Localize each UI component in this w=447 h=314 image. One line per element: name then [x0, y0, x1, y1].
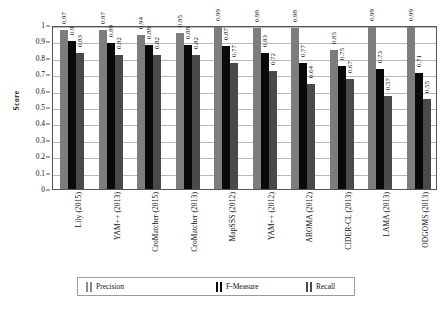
- y-axis-tick-label: 0.4: [36, 121, 45, 129]
- bar-f-measure: 0.88: [184, 27, 192, 189]
- bar-group: 0.850.750.67: [323, 27, 362, 189]
- y-axis-tick-mark: [46, 42, 50, 43]
- bar-precision: 0.97: [60, 27, 68, 189]
- bar-f-measure: 0.83: [261, 27, 269, 189]
- precision-swatch-icon: [86, 282, 93, 292]
- y-axis-tick-label: 0.2: [36, 153, 45, 161]
- bar-precision: 0.97: [99, 27, 107, 189]
- bar-recall: 0.64: [307, 27, 315, 189]
- y-axis-tick-label: 0.8: [36, 55, 45, 63]
- bar-value-label: 0.77: [231, 45, 238, 57]
- legend-label: Precision: [96, 282, 124, 291]
- x-axis-tick-labels: Lily (2015)YAM++ (2013)CroMatcher (2015)…: [52, 192, 437, 264]
- bar: [99, 30, 107, 189]
- y-axis-tick-mark: [46, 157, 50, 158]
- bar-value-label: 0.64: [308, 66, 315, 78]
- bar-value-label: 0.75: [338, 48, 345, 60]
- bar-value-label: 0.85: [330, 32, 337, 44]
- bar: [68, 41, 76, 189]
- plot-area: 0.970.90.830.970.890.820.940.880.820.950…: [52, 26, 437, 190]
- bar: [184, 45, 192, 189]
- x-axis-tick-label: CIDER-CL (2013): [345, 192, 353, 250]
- bar-precision: 0.94: [137, 27, 145, 189]
- bar-value-label: 0.99: [215, 9, 222, 21]
- bar: [222, 46, 230, 189]
- bar-value-label: 0.98: [253, 10, 260, 22]
- bar: [384, 96, 392, 189]
- bar-recall: 0.55: [423, 27, 431, 189]
- bar-chart: Score 10.90.80.70.60.50.40.30.20.10 0.97…: [0, 0, 447, 314]
- bar-value-label: 0.97: [99, 12, 106, 24]
- x-axis-tick-label: YAM++ (2013): [114, 192, 122, 240]
- bar: [115, 55, 123, 189]
- y-axis-tick-label: 0: [41, 186, 45, 194]
- bar: [214, 27, 222, 189]
- bar-recall: 0.82: [192, 27, 200, 189]
- bar: [60, 30, 68, 189]
- legend-item: F-Measure: [216, 282, 259, 292]
- bar-value-label: 0.88: [184, 27, 191, 39]
- bar-group: 0.980.770.64: [284, 27, 323, 189]
- y-axis-tick-mark: [46, 108, 50, 109]
- bar-value-label: 0.57: [385, 78, 392, 90]
- y-axis-tick-mark: [46, 190, 50, 191]
- y-axis-tick-mark: [46, 26, 50, 27]
- x-axis-tick-label: MapSSS (2012): [229, 192, 237, 241]
- bar-value-label: 0.67: [346, 61, 353, 73]
- bar: [253, 28, 261, 189]
- chart-legend: PrecisionF-MeasureRecall: [77, 277, 355, 296]
- bar: [407, 27, 415, 189]
- bar-precision: 0.99: [214, 27, 222, 189]
- bar: [346, 79, 354, 189]
- y-axis-tick-mark: [46, 58, 50, 59]
- x-axis-tick-label: CroMatcher (2015): [152, 192, 160, 252]
- bar: [192, 55, 200, 189]
- bar: [153, 55, 161, 189]
- bar-recall: 0.57: [384, 27, 392, 189]
- bar-f-measure: 0.73: [376, 27, 384, 189]
- y-axis-tick-labels: 10.90.80.70.60.50.40.30.20.10: [0, 26, 50, 190]
- bar-value-label: 0.97: [61, 12, 68, 24]
- bar: [176, 33, 184, 189]
- bar-value-label: 0.77: [300, 45, 307, 57]
- bar-value-label: 0.73: [377, 51, 384, 63]
- bar-value-label: 0.55: [423, 81, 430, 93]
- x-axis-tick-label: AROMA (2012): [306, 192, 314, 243]
- bar-group: 0.990.710.55: [400, 27, 439, 189]
- bar: [269, 71, 277, 189]
- y-axis-tick-label: 0.5: [36, 104, 45, 112]
- bar: [261, 53, 269, 189]
- bar-f-measure: 0.89: [107, 27, 115, 189]
- bar-f-measure: 0.75: [338, 27, 346, 189]
- bar-f-measure: 0.77: [299, 27, 307, 189]
- bar-group: 0.980.830.72: [246, 27, 285, 189]
- bar: [145, 45, 153, 189]
- bar: [423, 99, 431, 189]
- bar-value-label: 0.99: [369, 9, 376, 21]
- bar-recall: 0.83: [76, 27, 84, 189]
- y-axis-tick-label: 0.3: [36, 137, 45, 145]
- bar-value-label: 0.83: [77, 35, 84, 47]
- y-axis-tick-label: 1: [41, 22, 45, 30]
- bar-value-label: 0.98: [292, 10, 299, 22]
- bar-group: 0.970.90.83: [53, 27, 92, 189]
- bar-value-label: 0.95: [176, 15, 183, 27]
- bar-value-label: 0.71: [415, 55, 422, 67]
- bar-value-label: 0.83: [261, 35, 268, 47]
- bar-group: 0.950.880.82: [169, 27, 208, 189]
- bar-precision: 0.98: [253, 27, 261, 189]
- bar-precision: 0.95: [176, 27, 184, 189]
- y-axis-tick-label: 0.6: [36, 88, 45, 96]
- bar-value-label: 0.82: [192, 37, 199, 49]
- bar-f-measure: 0.71: [415, 27, 423, 189]
- bar-group: 0.990.730.57: [361, 27, 400, 189]
- bar-recall: 0.82: [115, 27, 123, 189]
- bar-value-label: 0.72: [269, 53, 276, 65]
- bar: [137, 35, 145, 189]
- y-axis-tick-label: 0.1: [36, 170, 45, 178]
- bars-layer: 0.970.90.830.970.890.820.940.880.820.950…: [53, 27, 436, 189]
- bar-group: 0.940.880.82: [130, 27, 169, 189]
- bar-value-label: 0.82: [154, 37, 161, 49]
- bar-value-label: 0.99: [407, 9, 414, 21]
- fmeasure-swatch-icon: [216, 282, 223, 292]
